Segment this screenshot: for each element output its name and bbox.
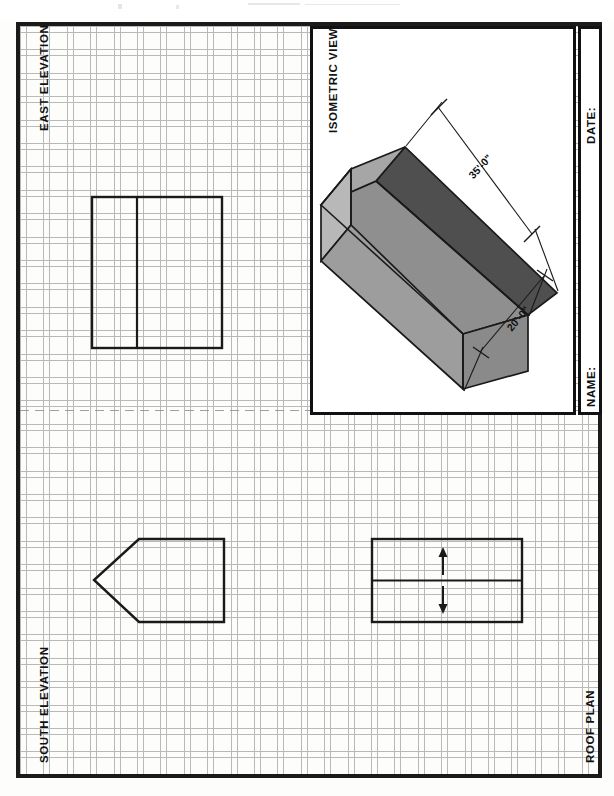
isometric-view-panel: 35'-0" 20'-0" ISOMETRIC VIEW <box>310 26 576 415</box>
arrow-down-icon <box>439 586 448 614</box>
roof-plan-drawing <box>372 539 522 622</box>
name-label[interactable]: NAME: <box>585 366 597 407</box>
isometric-view-label: ISOMETRIC VIEW <box>327 28 339 133</box>
date-label[interactable]: DATE: <box>585 107 597 144</box>
drawing-sheet: 35'-0" 20'-0" ISOMETRIC VIEW DATE: NAME:… <box>0 0 614 796</box>
isometric-solid: 35'-0" 20'-0" <box>313 29 573 412</box>
arrow-up-icon <box>439 547 448 575</box>
south-elevation-label: SOUTH ELEVATION <box>38 646 50 763</box>
south-elevation-drawing <box>94 539 224 622</box>
east-elevation-label: EAST ELEVATION <box>38 25 50 131</box>
roof-plan-label: ROOF PLAN <box>584 690 596 763</box>
title-block: DATE: NAME: <box>578 26 602 415</box>
east-elevation-drawing <box>92 197 222 348</box>
